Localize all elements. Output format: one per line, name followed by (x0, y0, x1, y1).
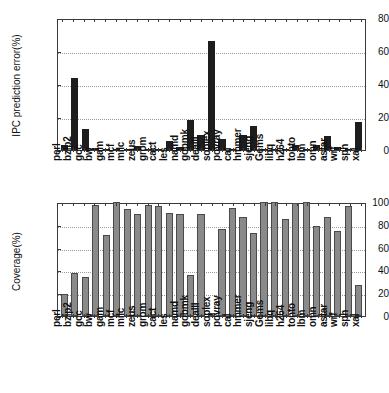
xtick-top-hmmer (243, 203, 244, 206)
bar-slot (259, 20, 270, 150)
bar-mcf[interactable] (113, 202, 120, 316)
top-y-axis-title: IPC prediction error(%) (11, 21, 22, 151)
xtick-top-Gems (265, 203, 266, 206)
bottom-ytick-label-20: 20 (337, 289, 389, 299)
bar-cact[interactable] (155, 206, 162, 316)
xtick-top-hmmer (243, 19, 244, 22)
bar-slot (133, 20, 144, 150)
xtick-top-gobmk (190, 19, 191, 22)
xtick-top-perl (62, 19, 63, 22)
xtick-top-perl (62, 203, 63, 206)
bottom-ytick-mark-60 (57, 249, 61, 250)
bar-slot (322, 20, 333, 150)
top-ytick-mark-60 (57, 52, 61, 53)
xtick-top-les (169, 203, 170, 206)
xtick-top-povray (222, 203, 223, 206)
bar-astar[interactable] (324, 217, 331, 316)
xtick-top-zeus (137, 19, 138, 22)
bar-slot (80, 20, 91, 150)
bottom-ytick-mark-40 (57, 271, 61, 272)
xtick-top-bzip2 (73, 19, 74, 22)
xtick-top-milc (126, 203, 127, 206)
bar-slot (133, 204, 144, 316)
xtick-top-lbm (307, 203, 308, 206)
bar-lbm[interactable] (303, 202, 310, 316)
xtick-top-gam (105, 203, 106, 206)
bar-grom[interactable] (145, 205, 152, 316)
xtick-top-h264 (286, 19, 287, 22)
xtick-top-astar (329, 203, 330, 206)
bar-slot (91, 20, 102, 150)
bar-libq[interactable] (271, 202, 278, 316)
bar-slot (101, 20, 112, 150)
bottom-ytick-mark-80 (57, 226, 61, 227)
bar-tonto[interactable] (292, 203, 299, 316)
bar-slot (101, 204, 112, 316)
xtick-top-milc (126, 19, 127, 22)
bottom-ytick-label-100: 100 (337, 198, 389, 208)
xtick-top-h264 (286, 203, 287, 206)
bar-slot (248, 20, 259, 150)
top-ytick-mark-80 (57, 19, 61, 20)
xtick-top-tonto (297, 203, 298, 206)
bottom-ytick-label-60: 60 (337, 244, 389, 254)
xtick-top-bzip2 (73, 203, 74, 206)
xtick-top-libq (275, 19, 276, 22)
bar-h264[interactable] (282, 219, 289, 316)
bar-slot (154, 20, 165, 150)
bar-slot (280, 204, 291, 316)
bottom-y-axis-title: Coverage(%) (11, 207, 22, 317)
bar-milc[interactable] (124, 209, 131, 316)
bar-Gems[interactable] (260, 202, 267, 316)
xtick-top-sph (350, 19, 351, 22)
top-ytick-label-80: 80 (337, 14, 389, 24)
xtick-top-Gems (265, 19, 266, 22)
xtick-top-dealII (201, 203, 202, 206)
bar-slot (80, 204, 91, 316)
xtick-top-sjeng (254, 19, 255, 22)
bar-omn[interactable] (313, 226, 320, 316)
xtick-top-wrf (339, 19, 340, 22)
top-x-labels: perlbzip2gccbwgammcfmilczeusgromcactlesn… (57, 154, 366, 200)
xtick-top-omn (318, 19, 319, 22)
xtick-top-gam (105, 19, 106, 22)
bar-bw[interactable] (92, 205, 99, 316)
bottom-ytick-label-80: 80 (337, 221, 389, 231)
bar-slot (290, 20, 301, 150)
xtick-top-omn (318, 203, 319, 206)
bar-slot (280, 20, 291, 150)
xtick-top-xal (361, 203, 362, 206)
top-ytick-label-40: 40 (337, 80, 389, 90)
bar-slot (112, 20, 123, 150)
xtick-top-cact (158, 19, 159, 22)
bar-zeus[interactable] (134, 214, 141, 316)
xtick-top-tonto (297, 19, 298, 22)
top-ytick-label-20: 20 (337, 113, 389, 123)
bar-slot (59, 204, 70, 316)
xtick-top-cact (158, 203, 159, 206)
xtick-top-sph (350, 203, 351, 206)
xtick-top-astar (329, 19, 330, 22)
bar-gam[interactable] (103, 235, 110, 316)
bar-slot (301, 20, 312, 150)
bottom-ytick-mark-20 (57, 294, 61, 295)
bar-slot (154, 204, 165, 316)
xtick-top-gcc (84, 203, 85, 206)
xtick-top-gobmk (190, 203, 191, 206)
top-ytick-mark-20 (57, 118, 61, 119)
bar-slot (311, 20, 322, 150)
xtick-top-bw (94, 203, 95, 206)
bottom-ytick-mark-100 (57, 203, 61, 204)
xtick-top-gcc (84, 19, 85, 22)
bar-slot (164, 204, 175, 316)
xtick-top-mcf (116, 19, 117, 22)
xtick-top-bw (94, 19, 95, 22)
xtick-top-zeus (137, 203, 138, 206)
figure-root: IPC prediction error(%) 80 60 40 20 0 (0, 0, 389, 393)
bar-slot (143, 204, 154, 316)
bar-slot (143, 20, 154, 150)
xtick-top-dealII (201, 19, 202, 22)
bar-slot (91, 204, 102, 316)
bar-slot (322, 204, 333, 316)
xtick-top-povray (222, 19, 223, 22)
